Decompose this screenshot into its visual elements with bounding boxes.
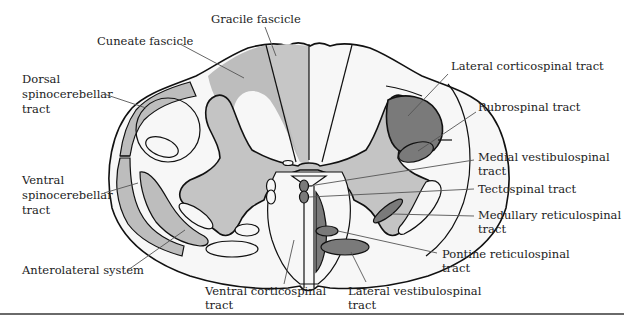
lateral-vestibulospinal-tract-region: [321, 239, 369, 255]
tectospinal-tract-region: [300, 191, 309, 203]
label-cuneate-fascicle: Cuneate fascicle: [97, 34, 194, 48]
pontine-reticulospinal-tract-region: [316, 226, 338, 236]
label-ventral-spinocerebellar: Ventral spinocerebellar tract: [21, 173, 116, 217]
left-ventral-small-ellipse: [235, 224, 259, 236]
bottom-divider: [0, 313, 624, 315]
label-pontine-reticulospinal: Pontine reticulospinal tract: [442, 247, 573, 275]
label-gracile-fascicle: Gracile fascicle: [211, 12, 301, 26]
central-canal: [283, 161, 293, 166]
label-anterolateral-system: Anterolateral system: [21, 263, 144, 277]
label-dorsal-spinocerebellar: Dorsal spinocerebellar tract: [22, 72, 116, 116]
left-ventral-large-ellipse: [206, 241, 258, 257]
label-tectospinal: Tectospinal tract: [478, 182, 577, 196]
label-medullary-reticulospinal: Medullary reticulospinal tract: [478, 208, 624, 236]
label-lateral-vestibulospinal: Lateral vestibulospinal tract: [348, 284, 485, 312]
label-lateral-corticospinal: Lateral corticospinal tract: [451, 59, 604, 73]
label-ventral-corticospinal: Ventral corticospinal tract: [204, 284, 330, 312]
label-medial-vestibulospinal: Medial vestibulospinal tract: [478, 150, 613, 178]
label-rubrospinal: Rubrospinal tract: [478, 100, 581, 114]
spinal-cord-diagram: Gracile fascicle Cuneate fascicle Dorsal…: [0, 0, 624, 328]
medial-vestibulospinal-tract-region: [300, 180, 309, 192]
